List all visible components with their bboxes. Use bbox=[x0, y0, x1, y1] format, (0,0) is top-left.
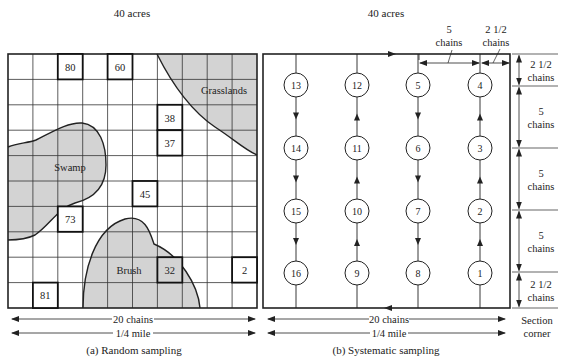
direction-arrow-icon bbox=[477, 239, 483, 246]
panel-b-chains-label: 20 chains bbox=[369, 314, 409, 325]
systematic-plot-label: 12 bbox=[352, 80, 362, 91]
direction-arrow-icon bbox=[415, 238, 421, 245]
direction-arrow-icon bbox=[477, 114, 483, 121]
panel-a-caption: (a) Random sampling bbox=[86, 344, 182, 357]
direction-arrow-icon bbox=[415, 113, 421, 120]
side-dim-unit: chains bbox=[528, 72, 555, 83]
systematic-plot-label: 4 bbox=[478, 80, 483, 91]
brush-label: Brush bbox=[116, 265, 142, 276]
side-dim-unit: chains bbox=[528, 181, 555, 192]
panel-a-area-label: 40 acres bbox=[114, 7, 150, 19]
panel-a-chains-label: 20 chains bbox=[113, 314, 153, 325]
systematic-plot-label: 6 bbox=[416, 143, 421, 154]
side-dim-value: 5 bbox=[538, 230, 543, 241]
side-dim-value: 2 1/2 bbox=[530, 279, 551, 290]
direction-arrow-icon bbox=[477, 177, 483, 184]
panel-systematic-sampling: 40 acres 13141516121110956784321 5 chain… bbox=[263, 7, 558, 357]
side-dim-unit: chains bbox=[528, 119, 555, 130]
top-dim-1-value: 5 bbox=[446, 24, 451, 35]
systematic-plot-label: 15 bbox=[291, 206, 301, 217]
section-corner-label-2: corner bbox=[524, 328, 551, 339]
direction-arrow-icon bbox=[293, 238, 299, 245]
sampling-diagram: 40 acres 80603837457332281 Grasslands Sw… bbox=[0, 0, 565, 362]
systematic-plot-label: 5 bbox=[416, 80, 421, 91]
systematic-plot-label: 7 bbox=[416, 206, 421, 217]
top-dim-2-value: 2 1/2 bbox=[485, 24, 506, 35]
systematic-transects: 13141516121110956784321 bbox=[284, 54, 492, 308]
direction-arrow-icon bbox=[293, 176, 299, 183]
systematic-plot-label: 1 bbox=[478, 268, 483, 279]
side-dim-value: 5 bbox=[538, 168, 543, 179]
systematic-plot-label: 13 bbox=[291, 80, 301, 91]
direction-arrow-icon bbox=[293, 113, 299, 120]
panel-b-area-label: 40 acres bbox=[368, 7, 404, 19]
top-dim-2-unit: chains bbox=[483, 37, 510, 48]
direction-arrow-icon bbox=[354, 114, 360, 121]
panel-a-mile-label: 1/4 mile bbox=[116, 328, 151, 339]
panel-random-sampling: 40 acres 80603837457332281 Grasslands Sw… bbox=[8, 7, 257, 357]
systematic-plot-label: 10 bbox=[352, 206, 362, 217]
panel-b-caption: (b) Systematic sampling bbox=[333, 344, 440, 357]
side-dim-unit: chains bbox=[528, 292, 555, 303]
top-traverse-arrow-icon bbox=[388, 51, 396, 57]
side-dim-value: 5 bbox=[538, 106, 543, 117]
section-corner-label-1: Section bbox=[521, 315, 553, 326]
sample-plot-label: 32 bbox=[165, 265, 176, 276]
bottom-traverse-arrow-icon bbox=[384, 305, 392, 311]
swamp-label: Swamp bbox=[54, 162, 86, 173]
systematic-plot-label: 16 bbox=[291, 268, 301, 279]
systematic-plot-label: 8 bbox=[416, 268, 421, 279]
sample-plot-label: 73 bbox=[65, 214, 76, 225]
systematic-plot-label: 3 bbox=[478, 143, 483, 154]
sample-plot-label: 45 bbox=[140, 189, 151, 200]
sample-plot-label: 2 bbox=[242, 265, 247, 276]
systematic-plot-label: 9 bbox=[355, 268, 360, 279]
sample-plot-label: 38 bbox=[165, 113, 176, 124]
sample-plot-label: 81 bbox=[40, 290, 51, 301]
top-dim-1-unit: chains bbox=[436, 37, 463, 48]
direction-arrow-icon bbox=[415, 176, 421, 183]
side-dim-value: 2 1/2 bbox=[530, 59, 551, 70]
sample-plot-label: 60 bbox=[115, 62, 126, 73]
direction-arrow-icon bbox=[354, 177, 360, 184]
sample-plot-label: 80 bbox=[65, 62, 76, 73]
panel-b-mile-label: 1/4 mile bbox=[372, 328, 407, 339]
side-dimensions: 2 1/2chains5chains5chains5chains2 1/2cha… bbox=[512, 54, 558, 308]
direction-arrow-icon bbox=[354, 239, 360, 246]
side-dim-unit: chains bbox=[528, 243, 555, 254]
systematic-plot-label: 11 bbox=[352, 143, 362, 154]
grasslands-label: Grasslands bbox=[201, 85, 247, 96]
systematic-plot-label: 14 bbox=[291, 143, 301, 154]
sample-plot-label: 37 bbox=[165, 138, 176, 149]
systematic-plot-label: 2 bbox=[478, 206, 483, 217]
